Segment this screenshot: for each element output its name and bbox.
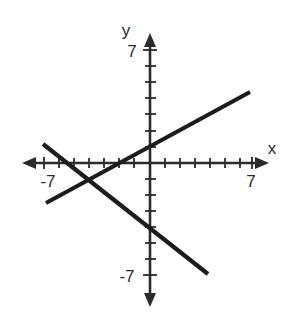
y-axis-down-arrow-icon <box>144 293 156 307</box>
coordinate-graph-figure: y x 7 -7 -7 7 <box>0 0 291 321</box>
x-axis-right-arrow-icon <box>255 157 269 169</box>
x-axis-min-tick-label: -7 <box>40 172 55 191</box>
y-axis-label: y <box>122 21 131 40</box>
y-axis-up-arrow-icon <box>144 33 156 47</box>
plotted-lines-group <box>43 92 250 274</box>
y-axis-min-tick-label: -7 <box>119 267 134 286</box>
axis-text-labels: y x 7 -7 -7 7 <box>40 21 276 286</box>
x-axis-max-tick-label: 7 <box>246 172 255 191</box>
y-axis-max-tick-label: 7 <box>127 42 136 61</box>
ascending-line <box>46 92 250 203</box>
graph-canvas: y x 7 -7 -7 7 <box>0 0 291 321</box>
axes-group <box>22 33 269 307</box>
x-axis-left-arrow-icon <box>22 157 36 169</box>
x-axis-label: x <box>268 139 277 158</box>
